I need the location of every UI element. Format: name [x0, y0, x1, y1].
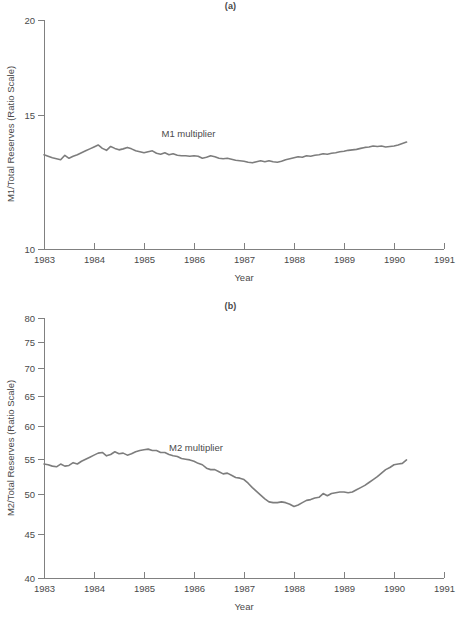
series-annotation-label: M1 multiplier	[162, 128, 216, 139]
x-axis-title: Year	[234, 601, 253, 612]
x-tick-label: 1988	[284, 583, 305, 594]
x-tick-label: 1984	[84, 583, 105, 594]
y-axis-title: M2/Total Reserves (Ratio Scale)	[5, 380, 16, 516]
x-tick-label: 1984	[84, 254, 105, 265]
x-tick-label: 1991	[434, 254, 455, 265]
x-tick-label: 1987	[234, 254, 255, 265]
series-line-m1-multiplier	[44, 142, 407, 163]
y-tick-label: 75	[24, 337, 35, 348]
series-line-m2-multiplier	[44, 449, 407, 506]
y-tick-label: 65	[24, 391, 35, 402]
figure-panel-b: (b) 404550556065707580198319841985198619…	[0, 300, 461, 620]
x-tick-label: 1989	[334, 583, 355, 594]
x-tick-label: 1987	[234, 583, 255, 594]
x-tick-label: 1985	[134, 583, 155, 594]
y-tick-label: 80	[24, 313, 35, 324]
x-tick-label: 1986	[184, 254, 205, 265]
y-tick-label: 15	[24, 110, 35, 121]
x-tick-label: 1983	[34, 583, 55, 594]
y-tick-label: 70	[24, 363, 35, 374]
y-tick-label: 50	[24, 489, 35, 500]
chart-panel-b: 4045505560657075801983198419851986198719…	[0, 300, 461, 620]
y-axis-title: M1/Total Reserves (Ratio Scale)	[5, 66, 16, 202]
x-tick-label: 1988	[284, 254, 305, 265]
chart-panel-a: 1015201983198419851986198719881989199019…	[0, 0, 461, 300]
x-axis-title: Year	[234, 272, 253, 283]
x-tick-label: 1990	[384, 254, 405, 265]
x-tick-label: 1985	[134, 254, 155, 265]
x-tick-label: 1991	[434, 583, 455, 594]
y-tick-label: 55	[24, 454, 35, 465]
x-tick-label: 1990	[384, 583, 405, 594]
x-tick-label: 1983	[34, 254, 55, 265]
y-tick-label: 20	[24, 15, 35, 26]
axis-spines	[44, 318, 444, 578]
x-tick-label: 1989	[334, 254, 355, 265]
figure-panel-a: (a) 101520198319841985198619871988198919…	[0, 0, 461, 300]
y-tick-label: 45	[24, 529, 35, 540]
x-tick-label: 1986	[184, 583, 205, 594]
axis-spines	[44, 20, 444, 249]
y-tick-label: 60	[24, 421, 35, 432]
series-annotation-label: M2 multiplier	[169, 442, 223, 453]
